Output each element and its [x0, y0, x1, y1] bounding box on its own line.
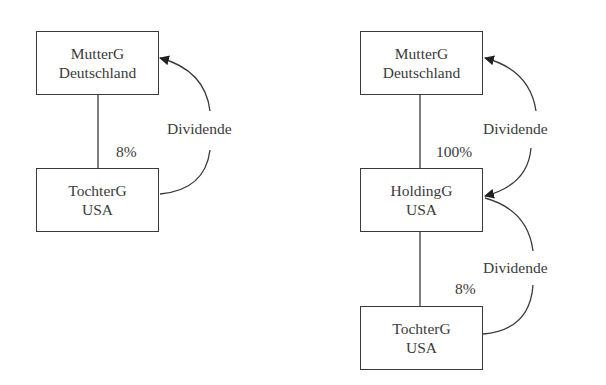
ownership-label-top: 100%	[436, 143, 472, 161]
parent-name: MutterG	[71, 44, 124, 63]
dividend-label: Dividende	[167, 120, 232, 138]
dividend-arrow-to-parent	[485, 58, 536, 111]
subsidiary-country: USA	[406, 338, 437, 357]
parent-country: Deutschland	[59, 63, 136, 82]
dividend-arrow-lower	[483, 285, 533, 334]
parent-country: Deutschland	[383, 63, 460, 82]
parent-company-box: MutterG Deutschland	[36, 31, 159, 95]
subsidiary-country: USA	[82, 200, 113, 219]
dividend-label-bottom: Dividende	[483, 259, 548, 277]
dividend-arrow-to-holding	[485, 148, 531, 196]
subsidiary-name: TochterG	[392, 319, 450, 338]
parent-name: MutterG	[395, 44, 448, 63]
holding-name: HoldingG	[391, 181, 453, 200]
ownership-label-bottom: 8%	[455, 280, 476, 298]
subsidiary-name: TochterG	[68, 181, 126, 200]
holding-country: USA	[406, 200, 437, 219]
holding-box: HoldingG USA	[360, 168, 483, 232]
parent-company-box: MutterG Deutschland	[360, 31, 483, 95]
ownership-label: 8%	[116, 143, 137, 161]
dividend-arrow-lower	[160, 150, 210, 194]
subsidiary-box: TochterG USA	[36, 168, 159, 232]
dividend-arrow	[160, 58, 210, 111]
dividend-label-top: Dividende	[483, 120, 548, 138]
subsidiary-box: TochterG USA	[360, 306, 483, 370]
dividend-arrow-upper	[485, 198, 533, 251]
